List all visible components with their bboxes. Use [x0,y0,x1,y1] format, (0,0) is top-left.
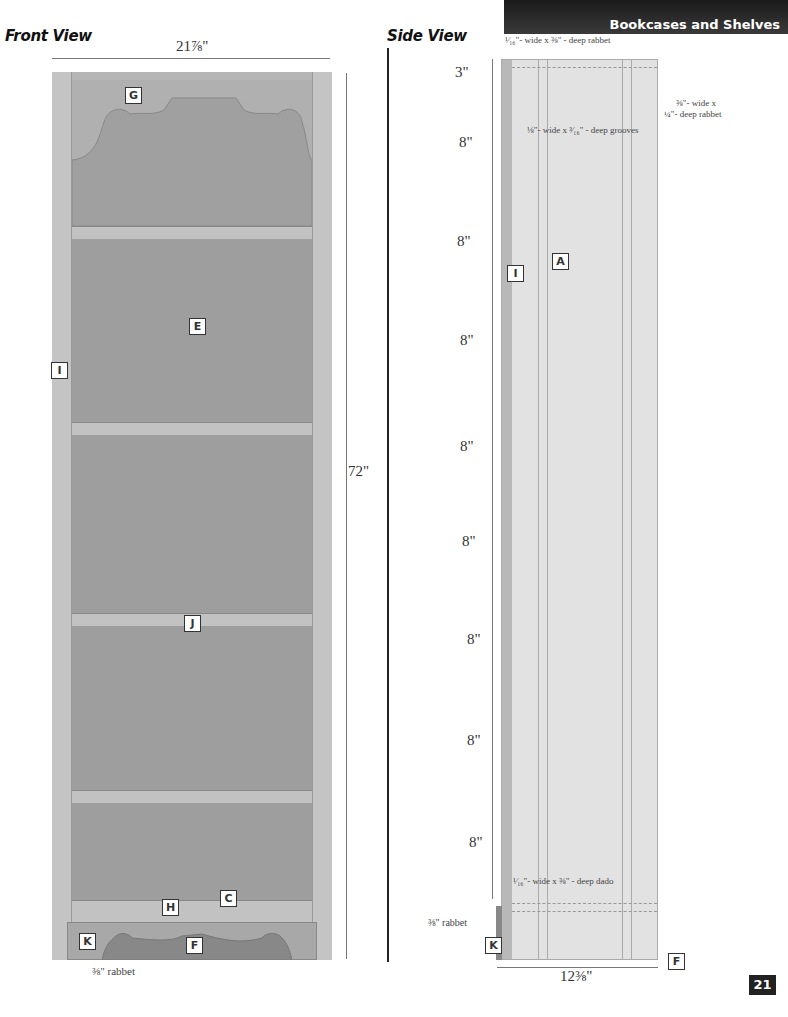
shelf-1 [72,226,312,240]
side-part-label-f: F [668,953,685,970]
shelf-2 [72,422,312,436]
spacing-dim-3: 8" [460,332,474,349]
dado-note: ¹⁄₁₆"- wide x ⅜" - deep dado [513,876,614,886]
spacing-dimension-line [492,59,493,899]
back-panel-section-4 [72,803,312,900]
part-label-c: C [220,890,237,907]
side-panel-drawing [501,59,658,960]
front-height-dimension: 72" [348,463,369,480]
back-panel-section-2 [72,435,312,613]
grooves-note: ⅛"- wide x ³⁄₁₆" - deep grooves [527,125,639,135]
dado-line-bottom [512,911,657,912]
view-divider [387,48,389,962]
back-rabbet-note-line1: ⅜"- wide x [676,98,716,108]
side-part-label-a: A [552,253,569,270]
spacing-dim-8: 8" [469,834,483,851]
height-dimension-line [346,73,347,959]
back-rabbet-note-line2: ¼"- deep rabbet [664,109,721,119]
side-depth-dimension: 12⅜" [560,968,592,985]
bookcase-front-drawing [52,72,332,960]
spacing-dim-6: 8" [467,631,481,648]
bottom-shelf [72,900,312,923]
groove-left [538,60,548,959]
spacing-dim-5: 8" [462,533,476,550]
side-panel-left [52,72,72,960]
part-label-g: G [125,87,142,104]
front-width-dimension: 21⅞" [176,38,208,55]
side-part-label-i: I [507,265,524,282]
spacing-dim-4: 8" [460,438,474,455]
part-label-k: K [79,933,96,950]
part-label-i: I [51,362,68,379]
side-panel-right [312,72,332,960]
part-label-j: J [184,615,201,632]
width-dimension-line [52,58,330,59]
dado-line-top [512,903,657,904]
side-part-label-k: K [485,937,502,954]
front-rabbet-note: ⅜" rabbet [92,965,135,977]
section-header-bar: Bookcases and Shelves [504,0,788,34]
side-rabbet-note: ⅜" rabbet [428,917,467,928]
page-number: 21 [749,975,776,995]
spacing-dim-7: 8" [467,732,481,749]
section-title: Bookcases and Shelves [610,17,781,32]
part-label-f: F [186,937,203,954]
side-view-title: Side View [387,27,467,45]
top-rabbet-line [512,67,657,68]
top-rabbet-note: ¹⁄₁₆"- wide x ⅜" - deep rabbet [505,35,611,45]
shelf-4 [72,790,312,804]
part-label-e: E [189,318,206,335]
spacing-dim-2: 8" [457,233,471,250]
back-panel-section-3 [72,626,312,790]
front-stile-edge [502,60,512,959]
valance-cutout-shape [72,92,312,226]
spacing-dim-1: 8" [459,134,473,151]
groove-right [622,60,632,959]
front-view-title: Front View [5,27,92,45]
part-label-h: H [162,899,179,916]
spacing-dim-top: 3" [455,64,469,81]
